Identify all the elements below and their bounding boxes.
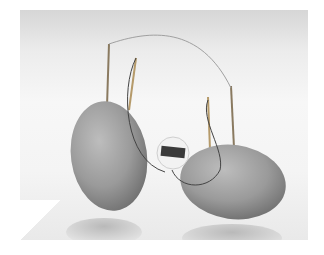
left-potato bbox=[64, 96, 155, 216]
potato-battery-illustration bbox=[20, 10, 308, 240]
top-wire bbox=[109, 35, 231, 88]
right-potato bbox=[175, 138, 290, 226]
photo: 12:03 bbox=[20, 10, 308, 240]
corner-fade bbox=[20, 200, 60, 240]
right-potato-reflection bbox=[182, 224, 282, 240]
left-potato-reflection bbox=[66, 218, 142, 240]
right-electrode-1 bbox=[231, 86, 234, 148]
left-electrode-1 bbox=[107, 44, 109, 106]
